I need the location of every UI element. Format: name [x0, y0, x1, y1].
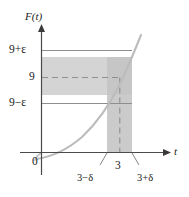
x-tick-label-center: 3 — [115, 160, 121, 172]
y-tick-label-upper: 9+ε — [9, 44, 26, 56]
x-axis-label: t — [174, 146, 177, 157]
figure-canvas — [0, 0, 189, 197]
y-tick-label-center: 9 — [29, 71, 35, 83]
x-tick-leader-right — [132, 153, 139, 165]
x-tick-label-right: 3+δ — [137, 173, 153, 184]
y-axis-label: F(t) — [25, 11, 42, 22]
origin-label: 0 — [32, 156, 38, 168]
x-axis-arrowhead — [163, 149, 171, 156]
x-tick-leader-left — [100, 153, 107, 165]
limit-epsilon-delta-figure: F(t) t 9+ε 9 9−ε 0 3−δ 3 3+δ — [0, 0, 189, 197]
x-tick-label-left: 3−δ — [77, 173, 93, 184]
y-tick-label-lower: 9−ε — [9, 97, 26, 109]
y-axis-arrowhead — [38, 24, 45, 32]
